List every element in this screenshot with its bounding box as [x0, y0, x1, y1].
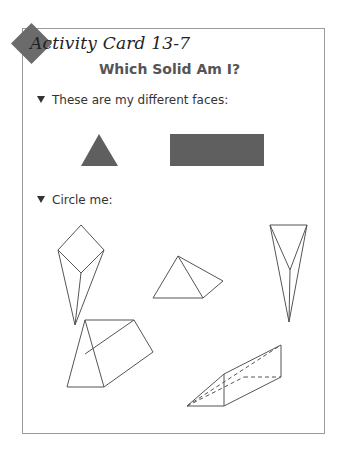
solid-square-pyramid-elongated[interactable] — [58, 225, 104, 325]
solid-triangular-pyramid[interactable] — [153, 256, 223, 298]
solid-triangular-prism[interactable] — [67, 320, 153, 387]
solid-triangular-prism-dashed[interactable] — [187, 345, 281, 406]
triangle-face-icon — [81, 134, 118, 166]
solid-triangular-pyramid-elongated[interactable] — [270, 225, 307, 322]
shapes-canvas — [0, 0, 339, 464]
rectangle-face-icon — [170, 134, 264, 166]
